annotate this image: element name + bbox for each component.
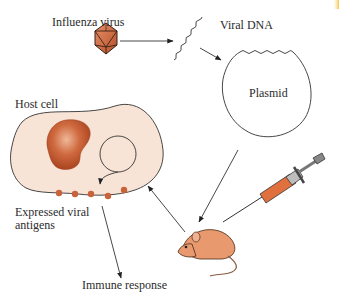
arrow-dna-to-plasmid	[200, 48, 221, 60]
syringe-icon	[223, 153, 325, 222]
influenza-virus-label: Influenza virus	[52, 16, 142, 29]
viral-dna-label: Viral DNA	[220, 19, 273, 32]
corner-mark	[333, 0, 339, 9]
expressed-viral-antigens-label: Expressed viral antigens	[15, 206, 95, 232]
arrow-plasmid-to-mouse	[199, 150, 238, 222]
dna-vaccine-diagram: Influenza virus Viral DNA Plasmid Host c…	[0, 0, 339, 298]
plasmid-label: Plasmid	[249, 87, 288, 100]
immune-response-label: Immune response	[82, 279, 167, 292]
host-cell-icon	[11, 104, 164, 195]
arrow-to-immune-response	[102, 206, 121, 278]
host-cell-label: Host cell	[15, 98, 58, 111]
arrow-mouse-to-cell	[148, 186, 185, 232]
mouse-icon	[178, 230, 236, 276]
viral-dna-strand-icon	[174, 17, 202, 60]
